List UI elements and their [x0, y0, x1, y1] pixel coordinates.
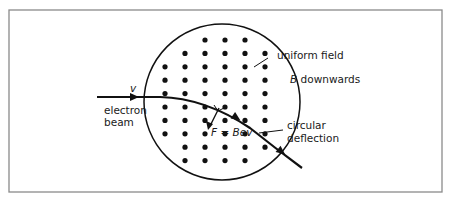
field-dot	[242, 78, 247, 83]
b-symbol: B	[290, 73, 297, 85]
field-dot	[222, 158, 227, 163]
b-downwards-text: downwards	[297, 73, 360, 85]
field-dot	[222, 78, 227, 83]
field-dot	[182, 158, 187, 163]
field-dot	[182, 51, 187, 56]
electron-beam-label-line2: beam	[104, 116, 134, 128]
field-dot	[222, 37, 227, 42]
field-dot	[262, 78, 267, 83]
field-dot	[242, 158, 247, 163]
figure-frame	[9, 10, 442, 192]
beam-arrowhead-icon	[130, 93, 139, 101]
circular-label: circular	[287, 119, 327, 131]
field-dot	[242, 91, 247, 96]
field-dot	[242, 64, 247, 69]
field-dot	[162, 78, 167, 83]
field-dot	[202, 51, 207, 56]
field-dot	[202, 37, 207, 42]
field-dot	[242, 37, 247, 42]
field-dot	[202, 64, 207, 69]
field-dot	[162, 104, 167, 109]
field-dot	[202, 158, 207, 163]
field-dot	[242, 104, 247, 109]
field-dot	[222, 91, 227, 96]
field-dot	[162, 64, 167, 69]
field-region-circle	[144, 24, 300, 180]
field-dot	[182, 64, 187, 69]
field-dot	[202, 131, 207, 136]
field-dot	[182, 131, 187, 136]
b-downwards-label: B downwards	[290, 73, 360, 85]
uniform-field-label: uniform field	[277, 49, 344, 61]
field-dot	[182, 91, 187, 96]
field-dots	[162, 37, 267, 163]
field-dot	[202, 145, 207, 150]
field-dot	[182, 145, 187, 150]
field-dot	[162, 91, 167, 96]
field-dot	[242, 51, 247, 56]
field-dot	[242, 145, 247, 150]
field-dot	[262, 118, 267, 123]
circular-deflection-leader-line	[259, 130, 283, 133]
electron-beam-label-line1: electron	[104, 104, 147, 116]
force-equals: =	[217, 126, 232, 138]
force-expression: Bev	[233, 126, 254, 138]
deflection-label: deflection	[287, 132, 339, 144]
field-dot	[162, 131, 167, 136]
field-dot	[262, 64, 267, 69]
diagram-figure: v electron beam uniform field B downward…	[0, 0, 450, 200]
field-dot	[182, 78, 187, 83]
field-dot	[222, 64, 227, 69]
field-dot	[222, 118, 227, 123]
field-dot	[182, 118, 187, 123]
force-equation-label: F = Bev	[211, 126, 253, 138]
field-dot	[242, 118, 247, 123]
field-dot	[202, 91, 207, 96]
field-dot	[262, 91, 267, 96]
field-dot	[262, 51, 267, 56]
field-dot	[202, 78, 207, 83]
field-dot	[162, 118, 167, 123]
field-dot	[222, 51, 227, 56]
field-dot	[222, 145, 227, 150]
field-dot	[182, 104, 187, 109]
velocity-label: v	[130, 82, 137, 94]
field-dot	[262, 145, 267, 150]
field-dot	[262, 104, 267, 109]
